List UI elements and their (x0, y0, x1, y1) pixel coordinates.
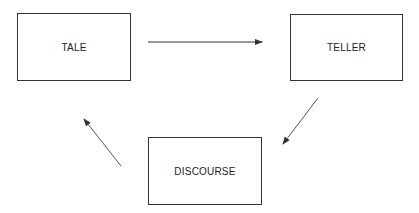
node-discourse: DISCOURSE (148, 137, 262, 205)
node-tale: TALE (17, 13, 131, 81)
node-tale-label: TALE (61, 42, 86, 53)
diagram-canvas: TALE TELLER DISCOURSE (0, 0, 419, 213)
arrow-discourse-to-tale (84, 119, 121, 166)
arrow-teller-to-discourse (283, 98, 318, 144)
node-discourse-label: DISCOURSE (174, 166, 235, 177)
node-teller: TELLER (290, 14, 403, 81)
node-teller-label: TELLER (327, 42, 366, 53)
